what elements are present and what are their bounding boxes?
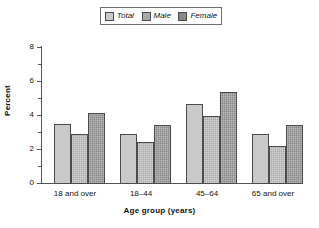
y-tick-label-0: 0 <box>30 179 34 187</box>
plot-area <box>41 46 301 184</box>
legend-label-male: Male <box>154 12 171 20</box>
y-tick-label-2: 2 <box>30 145 34 153</box>
bar-male-18-and-over <box>71 134 88 184</box>
legend-swatch-male <box>142 12 151 21</box>
x-tick-label-65-and-over: 65 and over <box>242 190 304 198</box>
bar-female-45-64 <box>220 92 237 184</box>
bar-group-18-and-over <box>54 47 105 184</box>
legend-entry-male: Male <box>142 12 171 21</box>
x-tick-label-18-44: 18–44 <box>110 190 172 198</box>
chart-legend: Total Male Female <box>100 7 222 25</box>
bar-total-65-and-over <box>252 134 269 184</box>
legend-entry-total: Total <box>105 12 134 21</box>
bar-female-18-and-over <box>88 113 105 184</box>
y-tick-label-4: 4 <box>30 111 34 119</box>
bar-chart-figure: Total Male Female Percent 8 6 4 2 0 <box>0 0 319 228</box>
legend-swatch-total <box>105 12 114 21</box>
bar-group-65-and-over <box>252 47 303 184</box>
legend-swatch-female <box>178 12 187 21</box>
bar-female-18-44 <box>154 125 171 184</box>
bar-male-18-44 <box>137 142 154 184</box>
bar-total-18-44 <box>120 134 137 184</box>
legend-entry-female: Female <box>178 12 217 21</box>
x-axis-title: Age group (years) <box>0 206 319 215</box>
bar-male-45-64 <box>203 116 220 184</box>
y-axis-tick-labels: 8 6 4 2 0 <box>0 0 41 228</box>
bar-male-65-and-over <box>269 146 286 184</box>
y-tick-label-8: 8 <box>30 43 34 51</box>
y-tick-label-6: 6 <box>30 77 34 85</box>
x-tick-label-45-64: 45–64 <box>176 190 238 198</box>
bar-group-45-64 <box>186 47 237 184</box>
bar-female-65-and-over <box>286 125 303 185</box>
bar-total-18-and-over <box>54 124 71 184</box>
legend-label-female: Female <box>190 12 217 20</box>
bar-total-45-64 <box>186 104 203 184</box>
bar-group-18-44 <box>120 47 171 184</box>
x-tick-label-18-and-over: 18 and over <box>44 190 106 198</box>
legend-label-total: Total <box>117 12 134 20</box>
